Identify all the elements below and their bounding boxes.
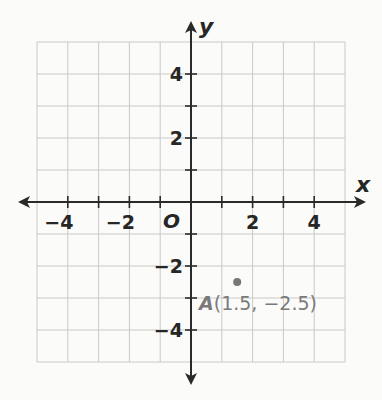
point-name: A	[197, 292, 214, 314]
y-tick-label: −4	[154, 319, 183, 341]
x-tick-label: 4	[308, 211, 321, 233]
coordinate-plane: −4−22442−2−4 x y O A(1.5, −2.5)	[0, 0, 382, 400]
x-axis-label: x	[355, 172, 371, 197]
origin-label: O	[163, 209, 180, 233]
y-tick-label: 4	[170, 63, 183, 85]
point-label: A(1.5, −2.5)	[197, 292, 317, 314]
x-tick-label: 2	[246, 211, 259, 233]
x-tick-label: −4	[44, 211, 73, 233]
y-tick-label: −2	[154, 255, 183, 277]
y-tick-label: 2	[170, 127, 183, 149]
x-tick-label: −2	[106, 211, 135, 233]
point-A	[233, 278, 241, 286]
point-coordinates: (1.5, −2.5)	[214, 292, 317, 314]
plotted-points: A(1.5, −2.5)	[197, 278, 317, 314]
y-axis-label: y	[199, 14, 215, 39]
